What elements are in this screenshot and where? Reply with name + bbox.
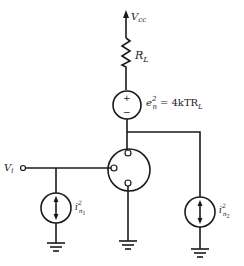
ground-icon — [119, 241, 137, 249]
bidirectional-arrow-icon — [54, 196, 59, 220]
minus-sign: − — [123, 107, 131, 117]
noise-voltage-equation: e2n= 4kTRL — [146, 95, 203, 111]
device-bottom-terminal — [125, 180, 131, 186]
ground-icon — [47, 243, 65, 251]
input-terminal — [21, 166, 26, 171]
device-input-terminal — [111, 165, 117, 171]
load-resistor-icon — [122, 38, 130, 90]
plus-sign: + — [123, 93, 131, 103]
device-top-terminal — [125, 150, 131, 156]
in2-label: i2n2 — [219, 202, 230, 219]
circuit-diagram: Vcc RL + − e2n= 4kTRL Vi i2n1 — [0, 0, 244, 266]
vcc-label: Vcc — [131, 11, 146, 24]
wire-output — [127, 132, 200, 197]
vi-label: Vi — [4, 162, 13, 175]
ground-icon — [191, 249, 209, 257]
vcc-supply-arrow-icon — [123, 10, 129, 38]
rl-label: RL — [134, 49, 149, 64]
bidirectional-arrow-icon — [198, 200, 203, 224]
in1-label: i2n1 — [75, 199, 86, 216]
